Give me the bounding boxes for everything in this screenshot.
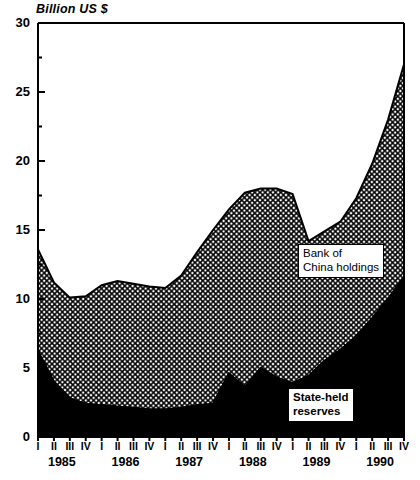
x-axis-quarter-label: I bbox=[291, 441, 294, 452]
x-axis-quarter-label: IV bbox=[272, 441, 282, 452]
x-axis-quarter-labels: IIIIIIIVIIIIIIIVIIIIIIIVIIIIIIIVIIIIIIIV… bbox=[0, 441, 420, 455]
x-axis-year-label: 1986 bbox=[112, 456, 140, 469]
x-axis-quarter-label: IV bbox=[335, 441, 345, 452]
y-axis-tick-label: 5 bbox=[2, 361, 30, 374]
y-axis-tick-label: 30 bbox=[2, 16, 30, 29]
x-axis-quarter-label: II bbox=[306, 441, 312, 452]
x-axis-quarter-label: I bbox=[37, 441, 40, 452]
y-axis-tick-label: 25 bbox=[2, 85, 30, 98]
y-axis-tick-label: 15 bbox=[2, 223, 30, 236]
annotation-state-held-reserves: State-held reserves bbox=[288, 388, 354, 422]
x-axis-quarter-label: II bbox=[369, 441, 375, 452]
chart-container: Billion US $ 302520151050 IIIIIIIVIIIIII… bbox=[0, 0, 420, 480]
x-axis-year-label: 1985 bbox=[48, 456, 76, 469]
x-axis-quarter-label: IV bbox=[208, 441, 218, 452]
annotation-state-line2: reserves bbox=[293, 405, 349, 419]
x-axis-quarter-label: III bbox=[256, 441, 265, 452]
x-axis-quarter-label: II bbox=[242, 441, 248, 452]
x-axis-quarter-label: II bbox=[51, 441, 57, 452]
x-axis-quarter-label: IV bbox=[81, 441, 91, 452]
y-axis-tick-label: 10 bbox=[2, 292, 30, 305]
annotation-bank-of-china-holdings: Bank of China holdings bbox=[298, 244, 384, 278]
x-axis-quarter-label: III bbox=[384, 441, 393, 452]
x-axis-quarter-label: II bbox=[178, 441, 184, 452]
x-axis-quarter-label: I bbox=[355, 441, 358, 452]
annotation-state-line1: State-held bbox=[293, 391, 349, 405]
annotation-bank-line2: China holdings bbox=[303, 261, 379, 275]
x-axis-quarter-label: I bbox=[164, 441, 167, 452]
x-axis-quarter-label: III bbox=[193, 441, 202, 452]
x-axis-year-labels: 198519861987198819891990 bbox=[0, 456, 420, 472]
x-axis-quarter-label: III bbox=[129, 441, 138, 452]
x-axis-quarter-label: IV bbox=[144, 441, 154, 452]
x-axis-quarter-label: IV bbox=[399, 441, 409, 452]
x-axis-quarter-label: II bbox=[115, 441, 121, 452]
x-axis-year-label: 1989 bbox=[303, 456, 331, 469]
y-axis-tick-label: 20 bbox=[2, 154, 30, 167]
x-axis-quarter-label: III bbox=[65, 441, 74, 452]
x-axis-year-label: 1988 bbox=[239, 456, 267, 469]
x-axis-quarter-label: III bbox=[320, 441, 329, 452]
x-axis-year-label: 1987 bbox=[175, 456, 203, 469]
x-axis-quarter-label: I bbox=[100, 441, 103, 452]
x-axis-quarter-label: I bbox=[227, 441, 230, 452]
area-chart-plot bbox=[0, 0, 420, 480]
annotation-bank-line1: Bank of bbox=[303, 247, 379, 261]
x-axis-year-label: 1990 bbox=[366, 456, 394, 469]
